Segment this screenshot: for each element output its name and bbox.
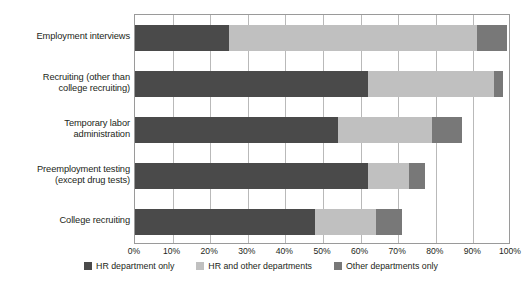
bar-row: [135, 25, 507, 51]
x-axis: 0%10%20%30%40%50%60%70%80%90%100%: [134, 246, 510, 260]
category-label-line: College recruiting: [0, 215, 130, 227]
legend-item: HR department only: [84, 261, 174, 271]
x-axis-tick-label: 0%: [128, 246, 140, 256]
bar-segment: [135, 117, 338, 143]
category-label-line: Recruiting (other than: [0, 72, 130, 84]
x-axis-tick-label: 100%: [499, 246, 521, 256]
category-label: Employment interviews: [0, 31, 130, 43]
x-axis-tick-label: 80%: [426, 246, 443, 256]
bar-segment: [494, 71, 503, 97]
category-label: Temporary laboradministration: [0, 118, 130, 141]
bar-segment: [135, 163, 368, 189]
category-label-line: administration: [0, 129, 130, 141]
x-axis-tick-label: 30%: [238, 246, 255, 256]
bar-row: [135, 117, 462, 143]
bar-segment: [376, 209, 402, 235]
legend-item: Other departments only: [334, 261, 438, 271]
bar-segment: [229, 25, 477, 51]
bar-segment: [368, 71, 494, 97]
x-axis-tick-label: 50%: [313, 246, 330, 256]
x-axis-tick-label: 90%: [464, 246, 481, 256]
legend-item: HR and other departments: [196, 261, 312, 271]
bar-segment: [338, 117, 432, 143]
legend-label: HR and other departments: [208, 261, 312, 271]
x-axis-tick-label: 40%: [276, 246, 293, 256]
category-label: Recruiting (other thancollege recruiting…: [0, 72, 130, 95]
stacked-bar-chart: Employment interviewsRecruiting (other t…: [0, 0, 522, 284]
bar-segment: [409, 163, 424, 189]
category-label-line: Temporary labor: [0, 118, 130, 130]
category-label: Preemployment testing(except drug tests): [0, 164, 130, 187]
bar-segment: [315, 209, 375, 235]
bar-segment: [135, 209, 315, 235]
bar-segment: [135, 71, 368, 97]
legend-swatch-icon: [196, 262, 204, 270]
chart-legend: HR department onlyHR and other departmen…: [0, 261, 522, 271]
legend-label: Other departments only: [346, 261, 438, 271]
category-label: College recruiting: [0, 215, 130, 227]
bar-row: [135, 71, 503, 97]
category-label-line: Preemployment testing: [0, 164, 130, 176]
bar-row: [135, 163, 425, 189]
category-label-line: Employment interviews: [0, 31, 130, 43]
category-axis: Employment interviewsRecruiting (other t…: [0, 14, 130, 244]
legend-label: HR department only: [96, 261, 174, 271]
bar-segment: [477, 25, 507, 51]
x-axis-tick-label: 10%: [163, 246, 180, 256]
plot-area: [134, 14, 510, 244]
x-axis-tick-label: 70%: [389, 246, 406, 256]
bar-segment: [135, 25, 229, 51]
bar-segment: [368, 163, 409, 189]
legend-swatch-icon: [334, 262, 342, 270]
legend-swatch-icon: [84, 262, 92, 270]
bar-segment: [432, 117, 462, 143]
x-axis-tick-label: 60%: [351, 246, 368, 256]
category-label-line: (except drug tests): [0, 175, 130, 187]
bar-row: [135, 209, 402, 235]
category-label-line: college recruiting): [0, 83, 130, 95]
x-axis-tick-label: 20%: [201, 246, 218, 256]
